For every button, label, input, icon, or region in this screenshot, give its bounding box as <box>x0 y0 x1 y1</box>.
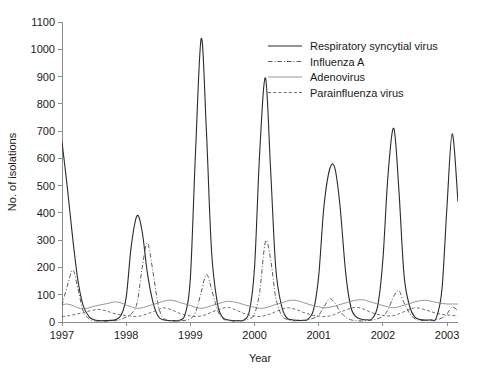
x-tick-label: 1997 <box>50 329 74 341</box>
x-tick-label: 1999 <box>178 329 202 341</box>
y-tick-label: 900 <box>37 71 55 83</box>
y-tick-label: 600 <box>37 152 55 164</box>
y-axis-ticks: 010020030040050060070080090010001100 <box>31 16 62 328</box>
x-tick-label: 2001 <box>306 329 330 341</box>
x-axis-title: Year <box>249 352 272 364</box>
y-tick-label: 300 <box>37 234 55 246</box>
x-axis-ticks: 1997199819992000200120022003 <box>50 322 460 341</box>
y-tick-label: 100 <box>37 289 55 301</box>
y-tick-label: 500 <box>37 180 55 192</box>
chart-svg: 0100200300400500600700800900100011001997… <box>0 0 480 370</box>
y-tick-label: 800 <box>37 98 55 110</box>
y-tick-label: 1000 <box>31 43 55 55</box>
y-tick-label: 400 <box>37 207 55 219</box>
y-tick-label: 700 <box>37 125 55 137</box>
series-line-2 <box>62 300 458 309</box>
y-axis-title: No. of isolations <box>6 132 18 211</box>
x-tick-label: 2003 <box>435 329 459 341</box>
x-tick-label: 1998 <box>114 329 138 341</box>
series-line-1 <box>62 240 458 321</box>
legend-label-0: Respiratory syncytial virus <box>310 40 438 52</box>
chart-figure: 0100200300400500600700800900100011001997… <box>0 0 480 370</box>
y-tick-label: 1100 <box>31 16 55 28</box>
chart-legend: Respiratory syncytial virusInfluenza AAd… <box>268 40 438 99</box>
series-group <box>62 38 458 321</box>
x-tick-label: 2002 <box>371 329 395 341</box>
x-tick-label: 2000 <box>242 329 266 341</box>
y-tick-label: 0 <box>49 316 55 328</box>
legend-label-2: Adenovirus <box>310 71 366 83</box>
series-line-0 <box>62 38 458 321</box>
y-tick-label: 200 <box>37 261 55 273</box>
legend-label-1: Influenza A <box>310 56 365 68</box>
legend-label-3: Parainfluenza virus <box>310 87 404 99</box>
